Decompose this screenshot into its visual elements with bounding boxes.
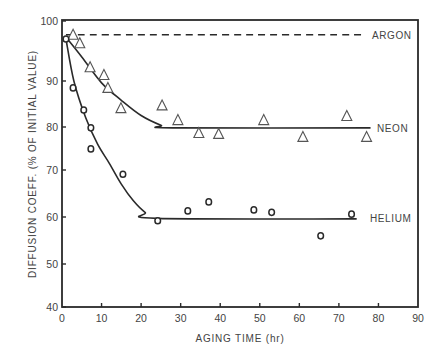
y-tick-label: 70: [46, 164, 58, 176]
diffusion-aging-chart: 405060708090100 0102030405060708090 ARGO…: [0, 0, 443, 360]
x-tick-label: 60: [293, 312, 305, 324]
y-tick-label: 40: [46, 301, 58, 313]
neon-data-point: [214, 128, 224, 138]
helium-data-point: [318, 233, 324, 239]
x-tick-label: 0: [59, 312, 65, 324]
x-tick-label: 20: [135, 312, 147, 324]
neon-data-point: [99, 70, 109, 80]
helium-data-point: [251, 207, 257, 213]
neon-data-point: [157, 100, 167, 110]
helium-data-point: [63, 36, 69, 42]
helium-curve: [66, 39, 357, 219]
helium-data-point: [155, 218, 161, 224]
helium-data-point: [269, 209, 275, 215]
x-tick-label: 90: [412, 312, 424, 324]
helium-data-point: [88, 146, 94, 152]
x-tick-label: 10: [96, 312, 108, 324]
y-tick-label: 80: [46, 121, 58, 133]
y-tick-label: 100: [40, 15, 58, 27]
x-tick-label: 30: [175, 312, 187, 324]
x-axis-title: AGING TIME (hr): [195, 333, 284, 344]
helium-data-point: [349, 211, 355, 217]
fit-curves: [66, 35, 371, 219]
helium-data-point: [70, 85, 76, 91]
y-tick-label: 90: [46, 75, 58, 87]
plot-border: [62, 20, 418, 307]
helium-data-point: [81, 107, 87, 113]
x-tick-label: 70: [333, 312, 345, 324]
y-axis-title: DIFFUSION COEFF. (% OF INITIAL VALUE): [27, 50, 38, 278]
neon-data-point: [173, 115, 183, 125]
neon-data-point: [103, 82, 113, 92]
plot-frame: [62, 20, 418, 307]
neon-data-point: [298, 131, 308, 141]
neon-data-point: [194, 128, 204, 138]
helium-data-point: [88, 125, 94, 131]
y-tick-label: 50: [46, 258, 58, 270]
y-tick-label: 60: [46, 211, 58, 223]
argon-label: ARGON: [372, 30, 412, 41]
data-markers: [63, 29, 371, 239]
x-tick-label: 80: [373, 312, 385, 324]
neon-data-point: [259, 115, 269, 125]
helium-label: HELIUM: [370, 213, 411, 224]
neon-data-point: [342, 110, 352, 120]
neon-label: NEON: [377, 123, 408, 134]
helium-data-point: [120, 171, 126, 177]
neon-data-point: [116, 103, 126, 113]
x-tick-label: 40: [214, 312, 226, 324]
helium-data-point: [206, 199, 212, 205]
helium-data-point: [185, 208, 191, 214]
neon-data-point: [362, 131, 372, 141]
neon-curve: [66, 37, 371, 128]
x-tick-label: 50: [254, 312, 266, 324]
